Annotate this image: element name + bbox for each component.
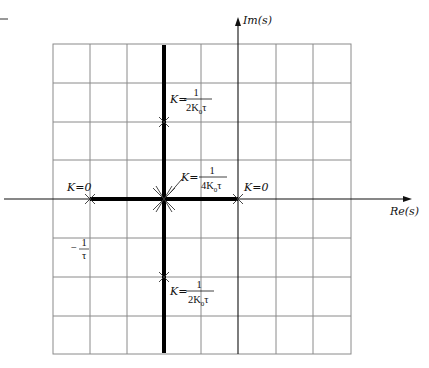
real-axis-label: Re(s) <box>389 205 419 218</box>
neg-inverse-tau-label: − 1 τ <box>71 237 89 261</box>
root-locus-diagram: Im(s) Re(s) K=0 K=0 K= 1 2K0τ K= 1 4K0τ … <box>0 0 429 368</box>
svg-text:τ: τ <box>82 250 86 261</box>
k-mid-label: K= 1 4K0τ <box>180 165 227 194</box>
k-zero-right-label: K=0 <box>243 181 268 194</box>
svg-text:−: − <box>71 242 77 253</box>
svg-text:K=: K= <box>169 285 187 298</box>
arrow-right-icon <box>403 196 412 202</box>
imaginary-axis <box>235 17 241 354</box>
k-bottom-label: K= 1 2K0τ <box>169 279 214 308</box>
k-top-label: K= 1 2K0τ <box>169 87 212 116</box>
imaginary-axis-label: Im(s) <box>242 14 272 27</box>
svg-text:1: 1 <box>209 165 214 176</box>
svg-text:1: 1 <box>81 237 86 248</box>
arrow-up-icon <box>235 17 241 26</box>
svg-text:K=: K= <box>180 171 198 184</box>
svg-text:2K0τ: 2K0τ <box>188 294 209 308</box>
k-zero-left-label: K=0 <box>66 181 91 194</box>
svg-text:4K0τ: 4K0τ <box>201 180 222 194</box>
svg-text:1: 1 <box>193 87 198 98</box>
svg-text:K=: K= <box>169 93 187 106</box>
svg-text:2K0τ: 2K0τ <box>186 102 207 116</box>
svg-text:1: 1 <box>196 279 201 290</box>
